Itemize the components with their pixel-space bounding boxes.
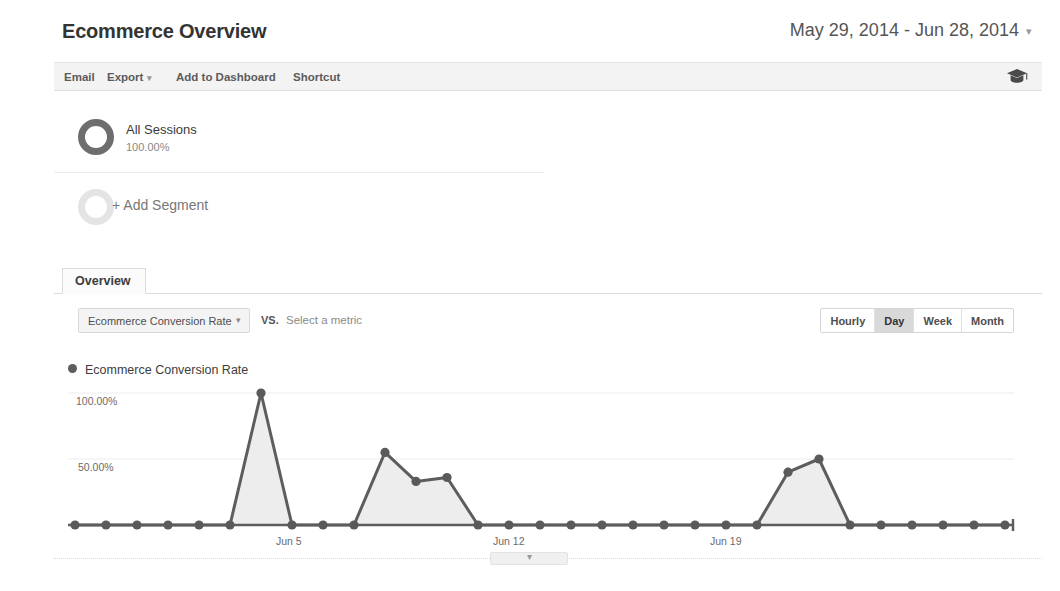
add-segment-row[interactable]: + Add Segment	[54, 175, 544, 243]
granularity-month[interactable]: Month	[962, 309, 1013, 332]
chevron-down-icon: ▾	[1026, 25, 1032, 38]
vs-label: VS.	[261, 314, 279, 326]
chart-data-point[interactable]	[70, 520, 79, 529]
granularity-day[interactable]: Day	[875, 309, 914, 332]
chart-data-point[interactable]	[876, 520, 885, 529]
chart-data-point[interactable]	[1000, 520, 1009, 529]
date-range-label: May 29, 2014 - Jun 28, 2014	[790, 20, 1019, 40]
chart-data-point[interactable]	[318, 520, 327, 529]
y-axis-label-50: 50.00%	[78, 461, 114, 473]
segment-percent: 100.00%	[126, 141, 169, 153]
segment-name: All Sessions	[126, 122, 197, 137]
chart-data-point[interactable]	[163, 520, 172, 529]
chart-data-point[interactable]	[225, 520, 234, 529]
metric-controls: Ecommerce Conversion Rate ▾ VS. Select a…	[54, 306, 1042, 340]
chevron-down-icon: ▾	[147, 73, 152, 83]
y-axis-label-100: 100.00%	[76, 395, 117, 407]
chart-data-point[interactable]	[349, 520, 358, 529]
chart-data-point[interactable]	[101, 520, 110, 529]
segment-panel: All Sessions 100.00% + Add Segment	[54, 101, 544, 247]
chevron-down-icon: ▾	[236, 315, 241, 325]
shortcut-button[interactable]: Shortcut	[293, 71, 340, 83]
chart-data-point[interactable]	[597, 520, 606, 529]
chart-data-point[interactable]	[535, 520, 544, 529]
chart-data-point[interactable]	[504, 520, 513, 529]
chart-data-point[interactable]	[380, 448, 389, 457]
tab-overview[interactable]: Overview	[62, 268, 146, 294]
chart-data-point[interactable]	[938, 520, 947, 529]
graduation-cap-icon[interactable]	[1006, 68, 1028, 86]
x-axis-tick-label: Jun 12	[493, 535, 525, 547]
granularity-button-group: Hourly Day Week Month	[820, 308, 1014, 333]
conversion-rate-chart[interactable]: 100.00% 50.00% Jun 5Jun 12Jun 19	[54, 380, 1042, 545]
legend-label: Ecommerce Conversion Rate	[85, 363, 248, 377]
tab-strip: Overview	[54, 268, 1042, 294]
report-toolbar: Email Export▾ Add to Dashboard Shortcut	[54, 62, 1042, 91]
chart-gridlines	[68, 393, 1014, 459]
legend-marker-icon	[68, 364, 77, 373]
chart-expander-handle[interactable]: ▾	[490, 552, 568, 565]
donut-ring-outline-icon	[78, 189, 114, 225]
export-button[interactable]: Export▾	[107, 71, 152, 83]
chart-data-point[interactable]	[907, 520, 916, 529]
chart-data-point[interactable]	[845, 520, 854, 529]
export-label: Export	[107, 71, 143, 83]
granularity-hourly[interactable]: Hourly	[821, 309, 875, 332]
x-axis-tick-label: Jun 19	[710, 535, 742, 547]
chart-data-point[interactable]	[783, 468, 792, 477]
chart-data-point[interactable]	[969, 520, 978, 529]
date-range-selector[interactable]: May 29, 2014 - Jun 28, 2014▾	[790, 20, 1032, 41]
page-title: Ecommerce Overview	[62, 20, 266, 43]
chart-data-point[interactable]	[132, 520, 141, 529]
chevron-down-icon: ▾	[491, 551, 567, 562]
chart-data-point[interactable]	[814, 454, 823, 463]
add-segment-label[interactable]: + Add Segment	[112, 197, 208, 213]
chart-data-point[interactable]	[721, 520, 730, 529]
chart-data-point[interactable]	[256, 388, 265, 397]
chart-data-point[interactable]	[752, 520, 761, 529]
chart-data-point[interactable]	[566, 520, 575, 529]
x-axis-tick-label: Jun 5	[276, 535, 302, 547]
primary-metric-select[interactable]: Ecommerce Conversion Rate ▾	[78, 308, 250, 333]
chart-data-point[interactable]	[659, 520, 668, 529]
chart-data-point[interactable]	[287, 520, 296, 529]
granularity-week[interactable]: Week	[914, 309, 962, 332]
chart-data-point[interactable]	[442, 473, 451, 482]
primary-metric-label: Ecommerce Conversion Rate	[88, 315, 232, 327]
donut-ring-icon	[78, 119, 114, 155]
chart-data-point[interactable]	[628, 520, 637, 529]
chart-data-point[interactable]	[194, 520, 203, 529]
segment-all-sessions[interactable]: All Sessions 100.00%	[54, 105, 544, 173]
chart-data-point[interactable]	[690, 520, 699, 529]
page-header: Ecommerce Overview May 29, 2014 - Jun 28…	[0, 0, 1060, 58]
add-to-dashboard-button[interactable]: Add to Dashboard	[176, 71, 276, 83]
chart-data-point[interactable]	[411, 477, 420, 486]
chart-legend: Ecommerce Conversion Rate	[68, 362, 248, 377]
secondary-metric-select[interactable]: Select a metric	[286, 314, 362, 326]
email-button[interactable]: Email	[64, 71, 95, 83]
chart-data-point[interactable]	[473, 520, 482, 529]
